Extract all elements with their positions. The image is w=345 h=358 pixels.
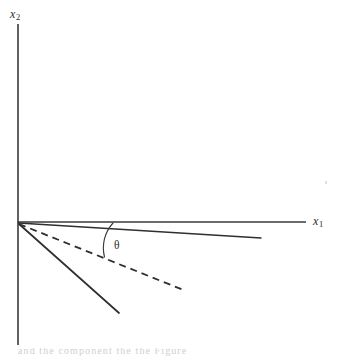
caption-remnant-text: and the component the the Figure [18,348,187,356]
x-axis-label: x1 [313,214,323,229]
dashed-ray [19,224,186,291]
figure-canvas: x1 x2 θ and the component the the Figure [0,0,345,358]
scan-speck-artifact [325,181,327,184]
lower-solid-ray [19,224,119,313]
y-axis-label-subscript: 2 [16,12,21,22]
y-axis-label: x2 [10,7,20,22]
caption-remnant-strip: and the component the the Figure [0,348,345,358]
vector-angle-diagram [0,0,345,358]
y-axis-label-base: x [10,7,16,21]
upper-solid-ray [19,223,262,238]
x-axis-label-subscript: 1 [319,219,324,229]
theta-angle-label: θ [114,239,120,251]
x-axis-label-base: x [313,214,319,228]
